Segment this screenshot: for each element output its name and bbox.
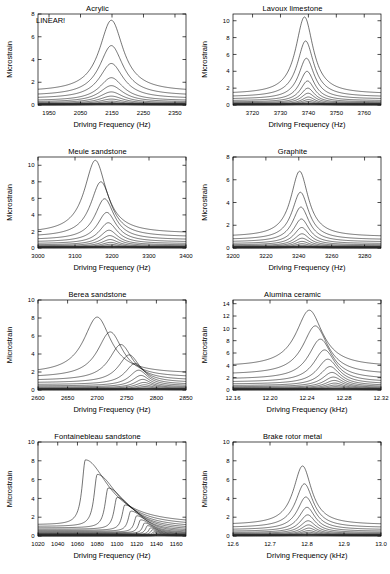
chart-panel-alumina-ceramic: Alumina ceramic12.1612.2012.2412.2812.32…: [195, 286, 390, 428]
x-axis-label: Driving Frequency (Hz): [73, 120, 151, 129]
x-tick-label: 12.32: [373, 395, 389, 401]
y-axis-label: Microstrain: [200, 41, 209, 78]
x-tick-label: 1160: [170, 541, 184, 547]
chart-panel-acrylic: AcrylicLINEAR!1950205021502250235002468D…: [0, 0, 195, 143]
x-tick-label: 12.16: [225, 395, 241, 401]
resonance-curve: [38, 497, 186, 529]
y-tick-label: 0: [31, 387, 35, 393]
y-tick-label: 0: [226, 387, 230, 393]
y-tick-label: 10: [223, 18, 230, 24]
x-tick-label: 12.7: [264, 541, 276, 547]
x-tick-label: 1120: [130, 541, 144, 547]
resonance-curve: [38, 317, 186, 372]
y-tick-label: 0: [31, 245, 35, 251]
y-tick-label: 4: [31, 351, 35, 357]
baseline-noise-band: [234, 534, 381, 536]
y-tick-label: 10: [223, 439, 230, 445]
x-tick-label: 3280: [358, 253, 372, 259]
x-tick-label: 2850: [179, 395, 193, 401]
x-tick-label: 3760: [358, 110, 372, 116]
x-tick-label: 2350: [168, 110, 182, 116]
resonance-curve: [233, 350, 381, 382]
x-tick-label: 1060: [71, 541, 85, 547]
y-tick-label: 6: [226, 52, 230, 58]
resonance-curve: [233, 507, 381, 531]
resonance-curve: [233, 88, 381, 102]
resonance-curve: [233, 41, 381, 96]
plot-frame: [38, 157, 186, 248]
resonance-curve: [233, 71, 381, 100]
plot-area: 102010401060108011001120114011600246810D…: [0, 428, 195, 574]
x-tick-label: 12.8: [301, 541, 313, 547]
y-tick-label: 0: [226, 533, 230, 539]
plot-area: 3200322032403260328002468Driving Frequen…: [195, 143, 390, 286]
plot-area: 1950205021502250235002468Driving Frequen…: [0, 0, 195, 143]
x-axis-label: Driving Frequency (Hz): [73, 263, 151, 272]
baseline-noise-band: [234, 103, 381, 105]
plot-area: 12.1612.2012.2412.2812.3202468101214Driv…: [195, 286, 390, 428]
x-tick-label: 1950: [42, 110, 56, 116]
x-axis-label: Driving Frequency (Hz): [268, 120, 346, 129]
chart-panel-lavoux-limestone: Lavoux limestone372037303740375037600246…: [195, 0, 390, 143]
y-tick-label: 2: [31, 79, 35, 85]
resonance-curve: [38, 460, 186, 524]
baseline-noise-band: [39, 103, 186, 105]
x-axis-label: Driving Frequency (Hz): [268, 263, 346, 272]
resonance-curve: [233, 228, 381, 245]
chart-panel-berea-sandstone: Berea sandstone2600265027002750280028500…: [0, 286, 195, 428]
x-tick-label: 3740: [302, 110, 316, 116]
plot-frame: [38, 14, 186, 105]
y-tick-label: 2: [226, 375, 230, 381]
y-tick-label: 0: [31, 533, 35, 539]
y-tick-label: 6: [31, 34, 35, 40]
resonance-curve: [233, 171, 381, 236]
x-tick-label: 3220: [259, 253, 273, 259]
y-tick-label: 8: [226, 154, 230, 160]
x-tick-label: 3730: [274, 110, 288, 116]
y-tick-label: 4: [226, 363, 230, 369]
y-tick-label: 6: [226, 177, 230, 183]
x-tick-label: 2650: [61, 395, 75, 401]
resonance-curve: [38, 20, 186, 89]
y-tick-label: 10: [223, 326, 230, 332]
resonance-curve: [38, 78, 186, 100]
x-tick-label: 3200: [105, 253, 119, 259]
y-tick-label: 4: [31, 496, 35, 502]
baseline-noise-band: [39, 388, 186, 390]
y-axis-label: Microstrain: [200, 327, 209, 364]
x-tick-label: 3200: [226, 253, 240, 259]
x-tick-label: 3750: [330, 110, 344, 116]
plot-area: 372037303740375037600246810Driving Frequ…: [195, 0, 390, 143]
resonance-curve: [233, 339, 381, 378]
y-tick-label: 10: [28, 297, 35, 303]
y-tick-label: 6: [226, 350, 230, 356]
x-tick-label: 2750: [120, 395, 134, 401]
x-tick-label: 1100: [110, 541, 124, 547]
y-tick-label: 4: [31, 212, 35, 218]
resonance-curve: [233, 377, 381, 387]
y-tick-label: 6: [226, 477, 230, 483]
plot-area: 12.612.712.812.913.00246810Driving Frequ…: [195, 428, 390, 574]
resonance-curve: [233, 234, 381, 246]
x-tick-label: 12.24: [299, 395, 315, 401]
y-tick-label: 4: [226, 200, 230, 206]
y-axis-label: Microstrain: [5, 184, 14, 221]
y-tick-label: 4: [226, 68, 230, 74]
y-axis-label: Microstrain: [200, 471, 209, 508]
x-tick-label: 1140: [150, 541, 164, 547]
y-tick-label: 2: [31, 229, 35, 235]
y-tick-label: 2: [226, 222, 230, 228]
y-tick-label: 2: [31, 369, 35, 375]
y-tick-label: 0: [31, 102, 35, 108]
x-tick-label: 3100: [68, 253, 82, 259]
resonance-curve: [38, 355, 186, 382]
x-tick-label: 2050: [74, 110, 88, 116]
baseline-noise-band: [234, 246, 381, 248]
x-tick-label: 12.9: [338, 541, 350, 547]
baseline-noise-band: [39, 534, 186, 536]
y-tick-label: 0: [226, 245, 230, 251]
y-tick-label: 10: [28, 439, 35, 445]
x-tick-label: 12.6: [227, 541, 239, 547]
baseline-noise-band: [39, 246, 186, 248]
y-axis-label: Microstrain: [5, 327, 14, 364]
